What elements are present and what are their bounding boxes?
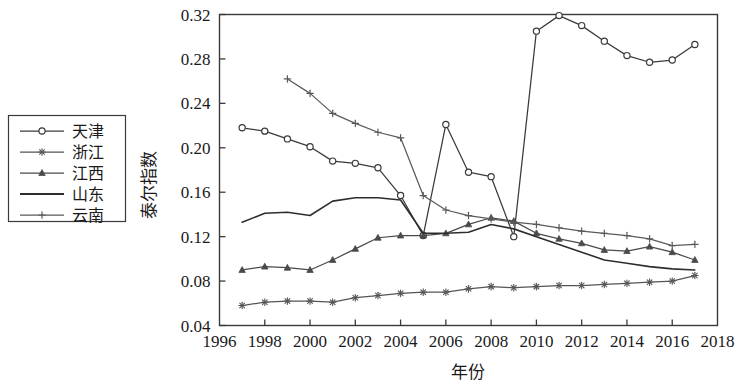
marker-asterisk (510, 284, 517, 291)
marker-triangle (646, 243, 652, 249)
marker-plus (420, 192, 426, 198)
y-tick-label: 0.16 (181, 183, 211, 202)
marker-asterisk (307, 298, 314, 305)
marker-asterisk (601, 281, 608, 288)
theil-index-line-chart: 0.040.080.120.160.200.240.280.32 1996199… (0, 0, 742, 384)
y-axis-title: 泰尔指数 (140, 151, 159, 219)
x-tick-label: 2010 (519, 332, 553, 351)
marker-plus (646, 236, 652, 242)
legend-label: 浙江 (72, 144, 104, 161)
x-tick-label: 2008 (474, 332, 508, 351)
marker-asterisk (397, 290, 404, 297)
marker-asterisk (488, 283, 495, 290)
y-axis-ticks (220, 15, 226, 326)
marker-asterisk (261, 299, 268, 306)
legend-label: 天津 (72, 123, 104, 140)
series-layer (239, 13, 698, 309)
x-tick-label: 2012 (565, 332, 599, 351)
marker-asterisk (646, 279, 653, 286)
marker-asterisk (692, 272, 699, 279)
series-1 (239, 272, 698, 309)
marker-circle (352, 160, 358, 166)
marker-plus (601, 230, 607, 236)
marker-plus (488, 216, 494, 222)
chart-canvas: 0.040.080.120.160.200.240.280.32 1996199… (0, 0, 742, 384)
x-tick-label: 2018 (701, 332, 735, 351)
marker-circle (397, 192, 403, 198)
marker-circle (284, 136, 290, 142)
marker-plus (556, 225, 562, 231)
marker-circle (465, 169, 471, 175)
marker-asterisk (39, 149, 46, 156)
marker-circle (262, 128, 268, 134)
marker-asterisk (624, 280, 631, 287)
x-tick-label: 2016 (655, 332, 689, 351)
marker-asterisk (239, 302, 246, 309)
marker-circle (488, 174, 494, 180)
marker-asterisk (375, 292, 382, 299)
legend-label: 云南 (72, 207, 104, 224)
marker-asterisk (669, 278, 676, 285)
x-axis-tick-labels: 1996199820002002200420062008201020122014… (203, 332, 735, 351)
marker-circle (443, 121, 449, 127)
x-tick-label: 1998 (248, 332, 282, 351)
marker-plus (443, 207, 449, 213)
marker-circle (511, 234, 517, 240)
marker-circle (646, 59, 652, 65)
marker-asterisk (352, 294, 359, 301)
marker-circle (556, 13, 562, 19)
marker-plus (352, 120, 358, 126)
marker-plus (692, 241, 698, 247)
marker-triangle (533, 230, 539, 236)
marker-circle (579, 23, 585, 29)
marker-asterisk (556, 282, 563, 289)
series-0 (239, 13, 698, 240)
marker-asterisk (533, 283, 540, 290)
marker-asterisk (284, 298, 291, 305)
y-tick-label: 0.20 (181, 139, 211, 158)
marker-plus (624, 232, 630, 238)
x-axis-title: 年份 (451, 363, 485, 382)
marker-circle (375, 165, 381, 171)
marker-circle (692, 41, 698, 47)
y-tick-label: 0.08 (181, 272, 211, 291)
marker-plus (397, 135, 403, 141)
marker-circle (601, 38, 607, 44)
marker-circle (669, 57, 675, 63)
marker-plus (284, 76, 290, 82)
x-tick-label: 2014 (610, 332, 645, 351)
marker-plus (465, 212, 471, 218)
x-tick-label: 2000 (293, 332, 327, 351)
legend-label: 山东 (72, 186, 104, 203)
x-tick-label: 2006 (429, 332, 463, 351)
y-tick-label: 0.32 (181, 6, 211, 25)
marker-plus (533, 221, 539, 227)
marker-circle (533, 28, 539, 34)
marker-plus (375, 129, 381, 135)
x-tick-label: 1996 (203, 332, 237, 351)
marker-circle (307, 144, 313, 150)
marker-asterisk (420, 289, 427, 296)
marker-circle (624, 52, 630, 58)
marker-plus (578, 228, 584, 234)
marker-asterisk (465, 286, 472, 293)
marker-circle (239, 125, 245, 131)
y-tick-label: 0.12 (181, 228, 211, 247)
marker-plus (669, 242, 675, 248)
marker-asterisk (443, 289, 450, 296)
marker-circle (330, 158, 336, 164)
y-axis-tick-labels: 0.040.080.120.160.200.240.280.32 (181, 6, 211, 336)
y-tick-label: 0.28 (181, 50, 211, 69)
marker-circle (39, 128, 45, 134)
x-tick-label: 2002 (338, 332, 372, 351)
x-tick-label: 2004 (384, 332, 419, 351)
x-axis-ticks (265, 320, 672, 326)
y-tick-label: 0.24 (181, 94, 211, 113)
marker-asterisk (329, 299, 336, 306)
marker-asterisk (578, 282, 585, 289)
legend-label: 江西 (72, 165, 104, 182)
